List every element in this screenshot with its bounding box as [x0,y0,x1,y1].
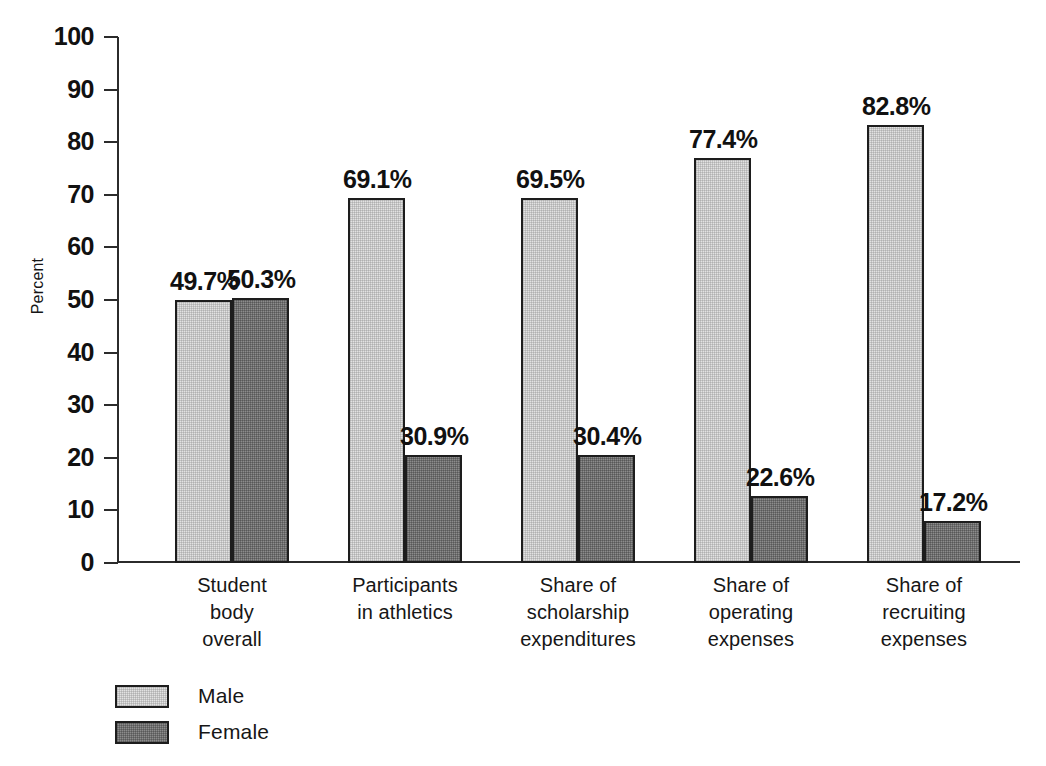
bar-female[interactable] [578,455,635,563]
x-axis-category-label: Share ofscholarshipexpenditures [478,572,678,653]
bar-group: 77.4%22.6% [694,37,808,563]
category-label-line: Share of [824,572,1024,599]
y-axis-tick-label: 80 [0,129,94,154]
category-label-line: expenses [651,626,851,653]
category-label-line: in athletics [305,599,505,626]
category-label-line: Share of [478,572,678,599]
y-axis-tick-label: 10 [0,497,94,522]
bar-group: 69.5%30.4% [521,37,635,563]
y-axis-tick-label: 40 [0,340,94,365]
y-axis-tick [104,299,118,301]
bar-value-label: 77.4% [689,127,756,152]
legend-label-female: Female [198,720,269,744]
bar-value-label: 22.6% [746,465,813,490]
chart-legend: Male Female [115,678,269,750]
y-axis-tick-label: 20 [0,445,94,470]
bar-male[interactable] [521,198,578,563]
bar-male[interactable] [348,198,405,563]
category-label-line: expenditures [478,626,678,653]
bar-value-label: 50.3% [227,267,294,292]
category-label-line: recruiting [824,599,1024,626]
x-axis-category-label: Share ofoperatingexpenses [651,572,851,653]
plot-area: 49.7%50.3%69.1%30.9%69.5%30.4%77.4%22.6%… [117,37,1020,563]
y-axis-tick [104,352,118,354]
bar-value-label: 30.9% [400,424,467,449]
y-axis-tick-label: 90 [0,77,94,102]
bar-male[interactable] [175,300,232,563]
y-axis-tick [104,457,118,459]
bar-female[interactable] [751,496,808,563]
y-axis-tick [104,194,118,196]
bar-group: 69.1%30.9% [348,37,462,563]
y-axis-tick [104,141,118,143]
y-axis-tick-label: 60 [0,234,94,259]
category-label-line: body [132,599,332,626]
bar-value-label: 69.1% [343,167,410,192]
category-label-line: Participants [305,572,505,599]
x-axis-category-label: Participantsin athletics [305,572,505,626]
bar-value-label: 30.4% [573,424,640,449]
bar-value-label: 69.5% [516,167,583,192]
category-label-line: Student [132,572,332,599]
y-axis-tick-label: 50 [0,287,94,312]
y-axis-tick-label: 100 [0,24,94,49]
y-axis-tick-label: 70 [0,182,94,207]
bar-chart: Percent 0102030405060708090100 49.7%50.3… [0,0,1046,766]
male-swatch-icon [115,685,169,708]
bar-male[interactable] [694,158,751,563]
bar-group: 82.8%17.2% [867,37,981,563]
y-axis-tick [104,509,118,511]
y-axis-tick [104,36,118,38]
legend-item-female[interactable]: Female [115,714,269,750]
bar-male[interactable] [867,125,924,563]
bar-value-label: 17.2% [919,490,986,515]
bar-group: 49.7%50.3% [175,37,289,563]
category-label-line: overall [132,626,332,653]
bar-female[interactable] [924,521,981,563]
category-label-line: operating [651,599,851,626]
legend-item-male[interactable]: Male [115,678,269,714]
legend-label-male: Male [198,684,244,708]
bar-female[interactable] [405,455,462,563]
category-label-line: expenses [824,626,1024,653]
y-axis-tick [104,89,118,91]
y-axis-tick [104,246,118,248]
y-axis-tick [104,404,118,406]
y-axis-tick [104,562,118,564]
category-label-line: scholarship [478,599,678,626]
y-axis-tick-label: 0 [0,550,94,575]
bar-female[interactable] [232,298,289,563]
x-axis-category-label: Studentbodyoverall [132,572,332,653]
female-swatch-icon [115,721,169,744]
category-label-line: Share of [651,572,851,599]
y-axis-tick-label: 30 [0,392,94,417]
x-axis-category-label: Share ofrecruitingexpenses [824,572,1024,653]
bar-value-label: 82.8% [862,94,929,119]
